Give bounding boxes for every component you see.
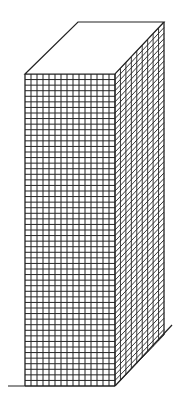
building-drawing	[0, 0, 184, 407]
front-facade-grid	[25, 74, 115, 386]
building-illustration	[0, 0, 184, 407]
side-facade-grid	[115, 22, 164, 386]
